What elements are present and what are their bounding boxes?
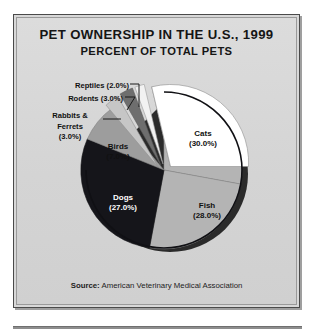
source-text: American Veterinary Medical Association	[101, 281, 242, 290]
pie-label-cats-line1: Cats	[194, 129, 212, 138]
pie-label-rabbits-line1: Rabbits &	[52, 111, 87, 120]
pie-label-rodents: Rodents (3.0%)	[39, 94, 123, 104]
pie-label-birds-line1: Birds	[108, 142, 129, 151]
pie-label-rabbits-line3: (3.0%)	[59, 132, 81, 141]
chart-card-inner: PET OWNERSHIP IN THE U.S., 1999 PERCENT …	[16, 17, 297, 305]
pie-slice-fish-lower[interactable]	[150, 170, 241, 249]
source-label: Source:	[71, 281, 100, 290]
pie-label-fish-line1: Fish	[199, 201, 216, 210]
page-title: PET OWNERSHIP IN THE U.S., 1999	[17, 27, 296, 43]
chart-subtitle: PERCENT OF TOTAL PETS	[17, 44, 296, 59]
bottom-divider	[13, 326, 302, 329]
pie-label-dogs-line2: (27.0%)	[109, 203, 137, 212]
pie-label-fish-line2: (28.0%)	[193, 211, 221, 220]
pie-label-cats-line2: (30.0%)	[189, 139, 217, 148]
chart-card: PET OWNERSHIP IN THE U.S., 1999 PERCENT …	[13, 14, 300, 308]
source-note: Source: American Veterinary Medical Asso…	[17, 281, 296, 290]
pie-label-reptiles: Reptiles (2.0%)	[45, 81, 129, 91]
pie-label-rabbits-ferrets: Rabbits & Ferrets (3.0%)	[39, 111, 101, 143]
pie-label-birds-line2: (7.0%)	[106, 152, 130, 161]
pie-label-rabbits-line2: Ferrets	[57, 122, 83, 131]
pie-label-dogs-line1: Dogs	[113, 193, 134, 202]
title-block: PET OWNERSHIP IN THE U.S., 1999 PERCENT …	[17, 27, 296, 59]
